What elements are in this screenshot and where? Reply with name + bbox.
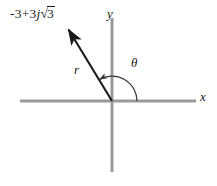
x-axis-label: x — [200, 90, 206, 103]
complex-plane-figure: -3+3j√3 r θ y x — [0, 0, 217, 186]
y-axis-label: y — [107, 7, 113, 20]
expression-real-part: -3 — [10, 6, 22, 21]
complex-number-expression: -3+3j√3 — [10, 6, 55, 21]
angle-theta-label: θ — [131, 56, 137, 69]
expression-radicand: 3 — [47, 6, 55, 21]
figure-canvas — [0, 0, 217, 186]
vector-magnitude-label: r — [74, 63, 79, 76]
